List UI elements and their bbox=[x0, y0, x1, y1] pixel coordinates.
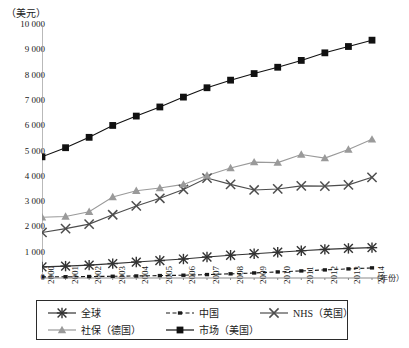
data-point-small-square bbox=[87, 275, 91, 278]
legend-label: 中国 bbox=[199, 305, 219, 320]
legend-item[interactable]: 中国 bbox=[165, 305, 219, 320]
legend-item[interactable]: 市场（美国） bbox=[165, 322, 259, 337]
data-point-triangle bbox=[344, 145, 352, 152]
y-tick-label: 4 000 bbox=[9, 171, 45, 181]
legend-label: 市场（美国） bbox=[199, 322, 259, 337]
data-point-small-square bbox=[181, 274, 185, 277]
data-point-square bbox=[86, 134, 93, 141]
data-point-small-square bbox=[111, 275, 115, 278]
data-point-asterisk bbox=[84, 260, 94, 270]
data-point-square bbox=[109, 122, 116, 129]
data-point-triangle bbox=[250, 158, 258, 165]
data-point-asterisk bbox=[155, 255, 165, 265]
data-point-asterisk bbox=[249, 249, 259, 259]
data-point-small-square bbox=[134, 274, 138, 277]
y-tick-label: 10 000 bbox=[9, 19, 45, 29]
data-point-x bbox=[367, 173, 376, 182]
data-point-triangle bbox=[368, 135, 376, 142]
data-point-x bbox=[85, 220, 94, 229]
y-tick-label: 7 000 bbox=[9, 95, 45, 105]
data-point-x bbox=[108, 210, 117, 219]
legend-label: 全球 bbox=[81, 305, 101, 320]
y-tick-label: 0 bbox=[9, 272, 45, 282]
legend-item[interactable]: NHS（英国） bbox=[259, 305, 353, 320]
chart-figure: （美元） （年份） 10 0009 0008 0007 0006 0005 00… bbox=[0, 0, 409, 348]
data-point-square bbox=[62, 144, 69, 151]
data-point-square bbox=[321, 49, 328, 56]
data-point-asterisk bbox=[178, 254, 188, 264]
data-point-asterisk bbox=[367, 242, 377, 252]
data-point-square bbox=[345, 43, 352, 50]
data-point-small-square bbox=[252, 271, 256, 274]
data-point-small-square bbox=[178, 311, 182, 314]
legend-label: NHS（英国） bbox=[293, 305, 353, 320]
data-point-asterisk bbox=[42, 262, 47, 272]
data-point-asterisk bbox=[57, 307, 67, 317]
legend-label: 社保（德国） bbox=[81, 322, 141, 337]
data-point-small-square bbox=[228, 272, 232, 275]
data-point-small-square bbox=[158, 274, 162, 277]
chart-legend: 全球中国NHS（英国）社保（德国）市场（美国） bbox=[36, 300, 348, 340]
legend-marker-small-square bbox=[165, 306, 195, 320]
data-point-square bbox=[156, 104, 163, 111]
data-point-asterisk bbox=[202, 252, 212, 262]
data-point-square bbox=[227, 77, 234, 84]
data-point-small-square bbox=[276, 270, 280, 273]
data-point-asterisk bbox=[225, 250, 235, 260]
y-tick-label: 3 000 bbox=[9, 196, 45, 206]
data-point-asterisk bbox=[273, 247, 283, 257]
y-tick-label: 6 000 bbox=[9, 120, 45, 130]
y-axis-title: （美元） bbox=[6, 5, 46, 20]
data-point-asterisk bbox=[343, 243, 353, 253]
series-line bbox=[42, 177, 372, 232]
data-point-small-square bbox=[346, 267, 350, 270]
data-point-small-square bbox=[370, 266, 374, 269]
data-point-x bbox=[132, 201, 141, 210]
data-point-small-square bbox=[299, 269, 303, 272]
data-point-small-square bbox=[63, 275, 67, 278]
legend-marker-asterisk bbox=[47, 306, 77, 320]
plot-svg bbox=[42, 25, 382, 280]
data-point-x bbox=[226, 180, 235, 189]
data-point-square bbox=[274, 64, 281, 71]
data-point-asterisk bbox=[60, 261, 70, 271]
data-point-square bbox=[180, 94, 187, 101]
data-point-triangle bbox=[179, 180, 187, 187]
data-point-small-square bbox=[42, 275, 44, 278]
y-tick-label: 8 000 bbox=[9, 70, 45, 80]
data-point-small-square bbox=[205, 273, 209, 276]
legend-item[interactable]: 社保（德国） bbox=[47, 322, 141, 337]
y-tick-label: 2 000 bbox=[9, 221, 45, 231]
data-point-square bbox=[133, 113, 140, 120]
legend-marker-x bbox=[259, 306, 289, 320]
data-point-triangle bbox=[85, 208, 93, 215]
data-point-square bbox=[177, 326, 184, 333]
data-point-square bbox=[42, 153, 45, 160]
data-point-x bbox=[155, 194, 164, 203]
data-point-asterisk bbox=[131, 257, 141, 267]
data-point-asterisk bbox=[296, 245, 306, 255]
y-tick-label: 5 000 bbox=[9, 146, 45, 156]
data-point-square bbox=[251, 70, 258, 77]
data-point-asterisk bbox=[320, 244, 330, 254]
data-point-square bbox=[369, 37, 376, 44]
data-point-small-square bbox=[323, 268, 327, 271]
data-point-triangle bbox=[297, 150, 305, 157]
plot-area bbox=[42, 25, 382, 278]
data-point-asterisk bbox=[108, 258, 118, 268]
data-point-square bbox=[204, 84, 211, 91]
legend-item[interactable]: 全球 bbox=[47, 305, 101, 320]
y-tick-label: 1 000 bbox=[9, 247, 45, 257]
y-tick-label: 9 000 bbox=[9, 44, 45, 54]
legend-marker-triangle bbox=[47, 323, 77, 337]
legend-marker-square bbox=[165, 323, 195, 337]
data-point-square bbox=[298, 57, 305, 64]
